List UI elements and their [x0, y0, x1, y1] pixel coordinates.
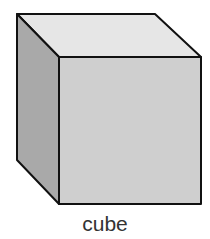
- cube-label: cube: [0, 212, 210, 236]
- cube-icon: [0, 0, 210, 210]
- cube-front-face: [59, 57, 201, 204]
